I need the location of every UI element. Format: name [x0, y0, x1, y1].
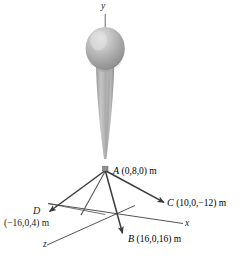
cable-A-to-ground-projection [81, 172, 105, 215]
statics-figure: y x z A (0,8,0) m C (10,0,−12) m D (−16,… [0, 0, 250, 257]
point-B-coord: (16,0,16) m [137, 234, 182, 244]
point-A-label: A (0,8,0) m [113, 165, 157, 176]
point-C-label: C (10,0,−12) m [167, 197, 226, 208]
point-C-name: C [167, 197, 174, 208]
point-D-name: D [33, 206, 40, 216]
point-B-label: B (16,0,16) m [128, 233, 181, 244]
point-A-name: A [113, 165, 119, 176]
point-C-coord: (10,0,−12) m [176, 198, 226, 208]
cables [50, 171, 165, 233]
x-axis-label: x [185, 219, 189, 229]
z-axis-label: z [43, 240, 47, 250]
cable-A-to-B [105, 171, 122, 233]
point-A-marker [103, 166, 108, 171]
point-A-coord: (0,8,0) m [122, 166, 157, 176]
balloon-icon [86, 27, 125, 159]
point-B-name: B [128, 233, 134, 244]
cable-A-to-D [50, 171, 105, 212]
point-D-coord: (−16,0,4) m [4, 219, 49, 229]
y-axis-label: y [101, 2, 105, 12]
